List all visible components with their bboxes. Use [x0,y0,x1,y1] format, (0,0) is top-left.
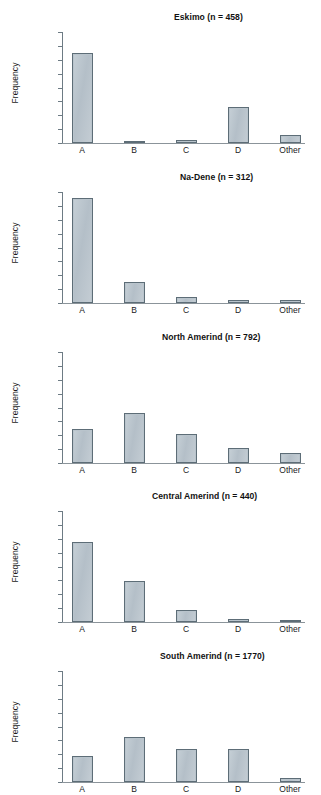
y-axis-label-text: Frequency [10,701,20,742]
y-axis-tick [58,782,62,783]
x-axis-tick-label: A [57,785,107,794]
y-axis-label-text: Frequency [10,62,20,103]
x-axis-tick-label: A [57,625,107,634]
y-axis-tick [58,46,62,47]
y-axis-tick [58,580,62,581]
bar [228,448,249,463]
y-axis-tick [58,768,62,769]
bar [72,756,93,782]
y-axis-tick [58,248,62,249]
bar [280,300,301,303]
x-axis-line [62,463,305,464]
bar [228,619,249,622]
y-axis-label: Frequency [8,196,22,290]
bar [72,198,93,303]
plot-area: North Amerind (n = 792)0.80.70.60.50.40.… [62,352,305,463]
x-axis-line [62,143,305,144]
y-axis-tick [58,463,62,464]
y-axis-tick [58,366,62,367]
x-axis-tick-label: D [213,466,263,475]
y-axis-tick [58,435,62,436]
y-axis-line [62,511,63,622]
panel-title: Na-Dene (n = 312) [180,172,253,182]
y-axis-label-text: Frequency [10,541,20,582]
x-axis-tick-label: Other [265,306,315,315]
chart-panel: FrequencyNorth Amerind (n = 792)0.80.70.… [0,320,321,480]
x-axis-tick-label: C [161,466,211,475]
plot-area: Na-Dene (n = 312)0.80.70.60.50.40.30.20.… [62,192,305,303]
y-axis-tick [58,206,62,207]
y-axis-tick [58,594,62,595]
y-axis-tick [58,622,62,623]
x-axis-line [62,622,305,623]
x-axis-tick-label: A [57,466,107,475]
x-axis-tick-label: C [161,306,211,315]
bar [228,749,249,782]
bar [124,282,145,303]
y-axis-tick [58,101,62,102]
y-axis-tick [58,553,62,554]
plot-area: Eskimo (n = 458)0.80.70.60.50.40.30.20.1… [62,32,305,143]
y-axis-tick [58,261,62,262]
y-axis-line [62,352,63,463]
y-axis-label-text: Frequency [10,222,20,263]
x-axis-tick-label: B [109,625,159,634]
y-axis-line [62,671,63,782]
y-axis-tick [58,449,62,450]
y-axis-tick [58,32,62,33]
y-axis-tick [58,220,62,221]
y-axis-tick [58,394,62,395]
x-axis-tick-label: D [213,625,263,634]
y-axis-tick [58,303,62,304]
x-axis-tick-label: B [109,306,159,315]
y-axis-tick [58,115,62,116]
y-axis-tick [58,608,62,609]
y-axis-tick [58,234,62,235]
y-axis-tick [58,408,62,409]
y-axis-tick [58,567,62,568]
x-axis-tick-label: Other [265,146,315,155]
y-axis-tick [58,143,62,144]
y-axis-line [62,192,63,303]
bar [280,135,301,143]
x-axis-tick-label: A [57,306,107,315]
panel-title: Central Amerind (n = 440) [152,491,257,501]
bar [228,107,249,143]
x-axis-tick-label: D [213,146,263,155]
y-axis-label: Frequency [8,36,22,130]
plot-area: Central Amerind (n = 440)0.80.70.60.50.4… [62,511,305,622]
bar [280,620,301,622]
y-axis-tick [58,511,62,512]
y-axis-tick [58,671,62,672]
bar [124,737,145,782]
bar [124,413,145,463]
y-axis-tick [58,352,62,353]
y-axis-tick [58,88,62,89]
chart-panel: FrequencyCentral Amerind (n = 440)0.80.7… [0,479,321,639]
bar [72,53,93,143]
bar [176,140,197,143]
y-axis-line [62,32,63,143]
x-axis-tick-label: B [109,785,159,794]
y-axis-tick [58,525,62,526]
y-axis-tick [58,129,62,130]
chart-panel: FrequencyEskimo (n = 458)0.80.70.60.50.4… [0,0,321,160]
y-axis-tick [58,740,62,741]
y-axis-tick [58,192,62,193]
y-axis-tick [58,699,62,700]
bar [228,300,249,303]
y-axis-tick [58,289,62,290]
panel-title: North Amerind (n = 792) [162,332,260,342]
bar [280,778,301,782]
y-axis-tick [58,685,62,686]
x-axis-tick-label: Other [265,785,315,794]
bar [72,429,93,463]
x-axis-tick-label: D [213,306,263,315]
bar [176,749,197,782]
y-axis-tick [58,275,62,276]
bar [124,581,145,622]
x-axis-line [62,303,305,304]
bar [124,141,145,143]
x-axis-tick-label: C [161,785,211,794]
y-axis-tick [58,727,62,728]
